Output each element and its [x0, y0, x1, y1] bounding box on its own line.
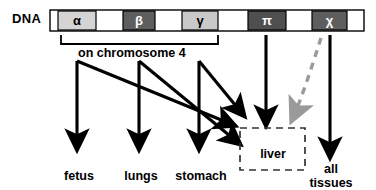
label-all-tissues-line1: all [308, 162, 354, 176]
gene-label-beta: β [123, 14, 155, 27]
gene-label-gamma: γ [182, 14, 218, 27]
label-lungs: lungs [116, 170, 166, 183]
gene-label-alpha: α [58, 14, 96, 27]
label-fetus: fetus [54, 170, 104, 183]
label-liver: liver [252, 148, 294, 161]
chromosome-bracket [61, 35, 218, 44]
globin-gene-expression-diagram: DNA α β γ π χ on chromosome 4 fetus lung… [0, 0, 376, 190]
dna-label: DNA [12, 12, 41, 25]
label-all-tissues: all tissues [308, 162, 354, 190]
gene-label-pi: π [248, 14, 286, 27]
gene-label-chi: χ [312, 14, 347, 27]
arrow-chi-to-liver-dashed [292, 38, 321, 120]
arrow-beta-to-liver [139, 61, 241, 145]
arrow-alpha-to-liver [77, 61, 236, 126]
label-all-tissues-line2: tissues [308, 176, 354, 190]
chromosome-bracket-label: on chromosome 4 [78, 47, 186, 60]
label-stomach: stomach [170, 170, 232, 183]
arrow-gamma-to-liver [199, 61, 245, 117]
